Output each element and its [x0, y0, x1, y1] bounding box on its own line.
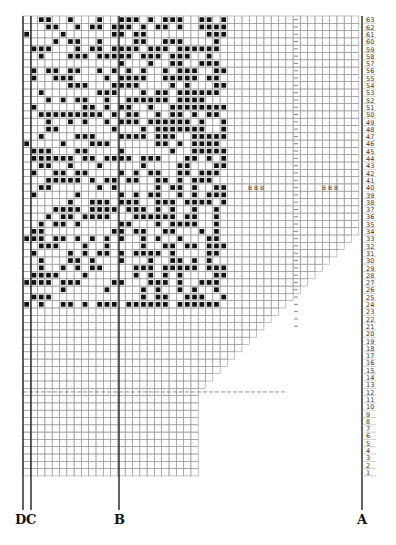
- svg-text:B B B: B B B: [322, 184, 338, 191]
- label-d: D: [15, 512, 26, 527]
- label-a: A: [357, 512, 367, 527]
- knitting-chart: B B BB B B636261605958575655545352515049…: [0, 0, 396, 545]
- label-c: C: [26, 512, 36, 527]
- svg-text:B B B: B B B: [248, 184, 264, 191]
- label-b: B: [114, 512, 125, 527]
